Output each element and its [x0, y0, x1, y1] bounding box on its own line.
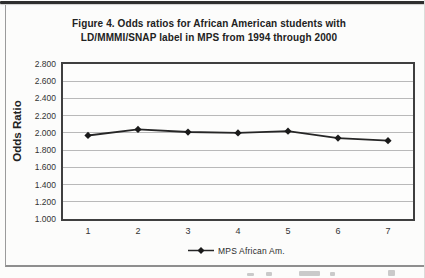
x-tick-label: 6 — [335, 226, 340, 236]
series-line-chart — [63, 64, 413, 219]
y-tick-label: 1.200 — [0, 197, 56, 207]
chart-title: Figure 4. Odds ratios for African Americ… — [25, 17, 393, 45]
y-tick-label: 2.400 — [0, 93, 56, 103]
x-tick-label: 4 — [235, 226, 240, 236]
clipped-text-artifact — [247, 273, 254, 276]
x-tick-label: 7 — [385, 226, 390, 236]
data-point-marker — [334, 134, 341, 141]
y-tick-label: 2.600 — [0, 76, 56, 86]
data-point-marker — [384, 137, 391, 144]
clipped-text-artifact — [330, 272, 335, 276]
plot-area — [61, 62, 415, 221]
page-top-rule — [0, 1, 425, 4]
y-tick-label: 1.400 — [0, 180, 56, 190]
x-tick-label: 1 — [85, 226, 90, 236]
scanned-figure-page: Figure 4. Odds ratios for African Americ… — [0, 0, 425, 278]
legend-label: MPS African Am. — [218, 246, 285, 256]
legend: MPS African Am. — [188, 245, 285, 256]
y-tick-label: 1.600 — [0, 162, 56, 172]
x-tick-label: 2 — [135, 226, 140, 236]
chart-title-line1: Figure 4. Odds ratios for African Americ… — [25, 17, 393, 31]
data-point-marker — [284, 128, 291, 135]
clipped-text-artifact — [299, 271, 320, 276]
y-tick-label: 1.000 — [0, 214, 56, 224]
legend-line-marker-icon — [188, 246, 214, 255]
y-tick-label: 2.000 — [0, 128, 56, 138]
y-tick-label: 1.800 — [0, 145, 56, 155]
x-tick-label: 5 — [285, 226, 290, 236]
chart-title-line2: LD/MMMI/SNAP label in MPS from 1994 thro… — [25, 31, 393, 45]
x-tick-label: 3 — [185, 226, 190, 236]
data-point-marker — [234, 129, 241, 136]
y-tick-label: 2.800 — [0, 59, 56, 69]
data-point-marker — [134, 126, 141, 133]
y-tick-label: 2.200 — [0, 111, 56, 121]
data-point-marker — [84, 132, 91, 139]
data-point-marker — [184, 128, 191, 135]
clipped-text-artifact — [266, 272, 272, 276]
clipped-text-artifact — [388, 270, 395, 276]
y-axis-tick-labels: 2.8002.6002.4002.2002.0001.8001.6001.400… — [0, 0, 57, 278]
x-axis-tick-labels: 1234567 — [63, 226, 413, 238]
